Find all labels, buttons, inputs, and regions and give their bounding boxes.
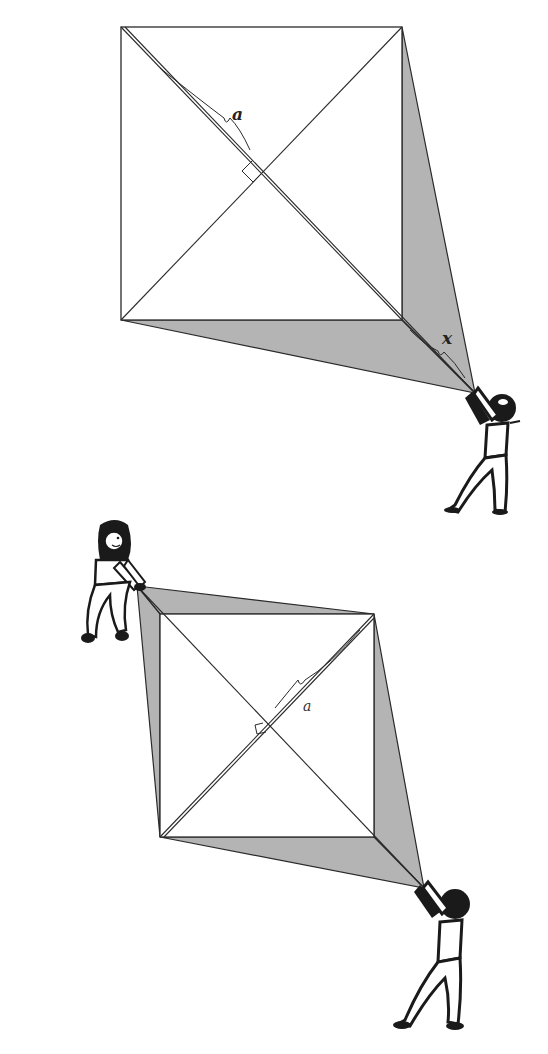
top-pyramid-diagram: a x xyxy=(121,27,475,393)
bottom-top-flap xyxy=(137,586,374,614)
girl-pulling-bottom-left-figure xyxy=(81,520,146,643)
bottom-left-flap xyxy=(137,586,160,837)
top-label-a: a xyxy=(232,104,243,124)
person-pulling-top-figure xyxy=(444,388,520,515)
bottom-label-a: a xyxy=(303,698,311,714)
diagram-canvas: a x a xyxy=(0,0,548,1054)
person-pulling-bottom-right-figure xyxy=(393,882,470,1030)
bottom-pyramid-diagram: a xyxy=(137,586,424,888)
top-label-x: x xyxy=(441,328,453,348)
